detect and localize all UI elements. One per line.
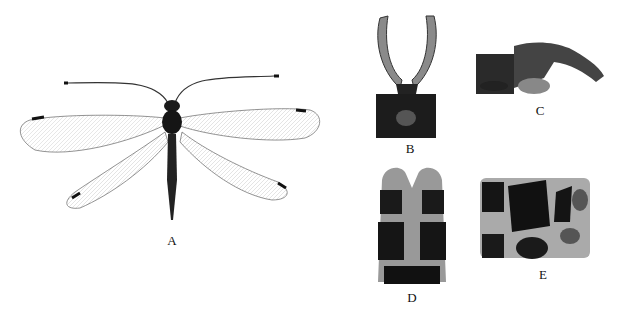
female-terminalia-lateral-image bbox=[480, 178, 598, 262]
male-terminalia-dorsal-image bbox=[372, 10, 442, 140]
panel-a-specimen bbox=[10, 70, 330, 230]
panel-c-specimen bbox=[474, 38, 606, 104]
panel-label-a: A bbox=[162, 233, 182, 249]
panel-label-b: B bbox=[400, 141, 420, 157]
panel-label-e: E bbox=[533, 267, 553, 283]
panel-e-specimen bbox=[480, 178, 598, 262]
panel-label-c: C bbox=[530, 103, 550, 119]
panel-d-specimen bbox=[374, 160, 450, 286]
male-terminalia-lateral-image bbox=[474, 38, 606, 104]
panel-b-specimen bbox=[372, 10, 442, 140]
insect-dorsal-image bbox=[10, 70, 330, 230]
female-terminalia-ventral-image bbox=[374, 160, 450, 286]
panel-label-d: D bbox=[402, 290, 422, 306]
